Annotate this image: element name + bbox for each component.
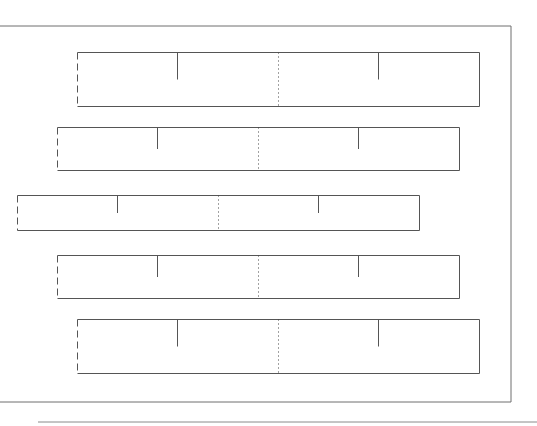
boxes-group [18, 53, 480, 374]
box-5 [78, 320, 480, 374]
boxplot-chart [0, 0, 537, 426]
box-2 [58, 128, 460, 171]
box-1 [78, 53, 480, 107]
box-3 [18, 196, 420, 231]
plot-frame [0, 26, 537, 422]
box-4 [58, 256, 460, 299]
